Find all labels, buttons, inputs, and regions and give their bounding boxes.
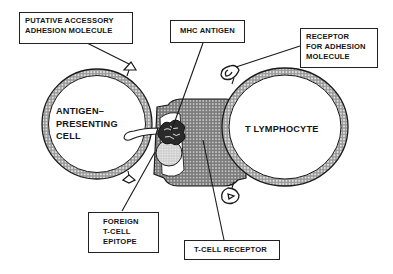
callout-foreign-t-cell-epitope: FOREIGN T-CELL EPITOPE bbox=[88, 212, 159, 253]
callout-putative-accessory-adhesion-molecule: PUTATIVE ACCESSORY ADHESION MOLECULE bbox=[19, 12, 133, 44]
accessory-adhesion-molecule-bottom bbox=[123, 171, 135, 183]
adhesion-receptor-top bbox=[221, 66, 239, 85]
callout-t-cell-receptor: T-CELL RECEPTOR bbox=[184, 240, 280, 260]
apc-label: ANTIGEN– PRESENTING CELL bbox=[56, 105, 118, 143]
leader-putative bbox=[87, 43, 129, 64]
diagram-canvas: ANTIGEN– PRESENTING CELL T LYMPHOCYTE PU… bbox=[0, 0, 393, 274]
callout-receptor-for-adhesion-molecule: RECEPTOR FOR ADHESION MOLECULE bbox=[300, 28, 378, 68]
leader-receptor bbox=[236, 46, 300, 67]
callout-mhc-antigen: MHC ANTIGEN bbox=[170, 20, 245, 43]
accessory-adhesion-molecule-top bbox=[124, 62, 136, 76]
t-lymphocyte-label: T LYMPHOCYTE bbox=[245, 123, 319, 136]
